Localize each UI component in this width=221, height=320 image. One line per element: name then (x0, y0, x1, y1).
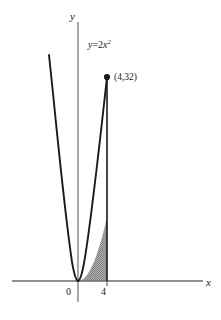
curve-equation-label: y=2x2 (88, 39, 111, 50)
data-point-label: (4,32) (114, 73, 137, 83)
y-axis-label: y (70, 11, 75, 22)
figure-container: y x 0 4 y=2x2 (4,32) (0, 0, 221, 320)
x-tick-label-4: 4 (101, 287, 106, 297)
curve-parabola-left (49, 55, 78, 281)
x-axis-label: x (206, 277, 211, 288)
x-tick-label-0: 0 (66, 287, 71, 297)
equation-exponent: 2 (108, 38, 111, 45)
data-point-4-32 (104, 74, 110, 80)
